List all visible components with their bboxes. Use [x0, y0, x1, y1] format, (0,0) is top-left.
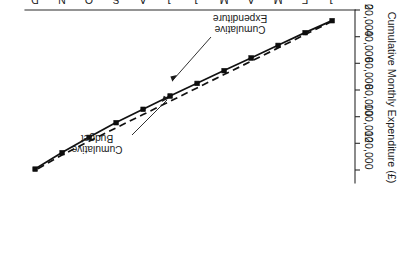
x-axis-tick-may: M [218, 0, 230, 5]
rotated-figure-wrapper: 0 20,000 40,000 60,000 80,000 100,000 12… [0, 0, 417, 263]
x-axis-tick-oct: O [83, 0, 95, 5]
annotation-budget-line1: Cumulative [57, 144, 137, 155]
x-axis-tick-feb: F [299, 0, 311, 5]
x-axis-tick-apr: A [245, 0, 257, 5]
x-axis-tick-mar: M [272, 0, 284, 5]
chart-figure: 0 20,000 40,000 60,000 80,000 100,000 12… [0, 0, 417, 263]
x-axis-tick-jul: J [164, 0, 176, 5]
x-axis-tick-nov: N [56, 0, 68, 5]
x-axis-tick-sep: S [110, 0, 122, 5]
x-axis-tick-jan: J [326, 0, 338, 5]
annotation-budget-line2: Budget [57, 132, 137, 143]
annotation-leader-budget [132, 96, 169, 135]
annotation-cumulative-expenditure: Cumulative Expenditure [196, 12, 284, 35]
annotation-cumulative-budget: Cumulative Budget [57, 132, 137, 155]
figure-page: 0 20,000 40,000 60,000 80,000 100,000 12… [0, 0, 417, 263]
x-axis-tick-dec: D [29, 0, 41, 5]
y-axis-ticks [355, 10, 360, 170]
x-axis-tick-jun: J [191, 0, 203, 5]
y-axis-tick-120000: 120,000 [364, 111, 375, 170]
annotation-expenditure-line1: Cumulative [196, 24, 284, 35]
y-axis-title: Cumulative Monthly Expenditure (£) [387, 0, 398, 203]
annotation-expenditure-line2: Expenditure [196, 12, 284, 23]
x-axis-tick-aug: A [137, 0, 149, 5]
annotation-leader-expenditure [170, 37, 211, 82]
